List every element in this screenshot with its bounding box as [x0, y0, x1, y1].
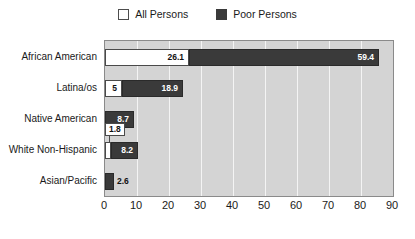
legend-label-all-persons: All Persons: [135, 9, 188, 20]
x-tick-label-10: 10: [130, 199, 142, 211]
x-tick-label-40: 40: [226, 199, 238, 211]
legend-swatch-poor-persons-icon: [216, 9, 227, 20]
x-tick-label-30: 30: [194, 199, 206, 211]
y-tick-label-native-american: Native American: [0, 113, 97, 124]
bar-row-asian-pacific: 2.6: [105, 173, 393, 190]
chart-legend: All Persons Poor Persons: [0, 9, 415, 20]
x-tick-label-70: 70: [322, 199, 334, 211]
x-tick-label-20: 20: [162, 199, 174, 211]
callout-leader-white-non-hispanic: [109, 136, 110, 143]
legend-item-poor-persons: Poor Persons: [216, 9, 297, 20]
plot-area: 26.1 59.4 5 18.9 8.7 8.2: [104, 40, 394, 197]
bar-all-persons-african-american: 26.1: [105, 49, 189, 66]
bar-row-african-american: 26.1 59.4: [105, 49, 393, 66]
x-tick-label-0: 0: [101, 199, 107, 211]
legend-item-all-persons: All Persons: [118, 9, 188, 20]
bar-row-native-american: 8.7: [105, 111, 393, 128]
bar-value-all-persons-white-non-hispanic: 1.8: [105, 123, 125, 136]
bar-poor-persons-latinaos: 18.9: [122, 80, 183, 97]
y-tick-label-latinaos: Latina/os: [0, 82, 97, 93]
bar-row-latinaos: 5 18.9: [105, 80, 393, 97]
bar-value-poor-persons-latinaos: 18.9: [161, 84, 182, 93]
x-axis: 0 10 20 30 40 50 60 70 80 90: [104, 199, 392, 219]
legend-label-poor-persons: Poor Persons: [233, 9, 297, 20]
x-tick-label-50: 50: [258, 199, 270, 211]
x-tick-label-60: 60: [290, 199, 302, 211]
legend-swatch-all-persons-icon: [118, 9, 129, 20]
y-tick-label-african-american: African American: [0, 51, 97, 62]
bar-value-poor-persons-white-non-hispanic: 8.2: [121, 146, 137, 155]
bar-value-poor-persons-asian-pacific: 2.6: [117, 177, 133, 186]
bar-value-poor-persons-african-american: 59.4: [357, 53, 378, 62]
y-tick-label-asian-pacific: Asian/Pacific: [0, 175, 97, 186]
bar-all-persons-latinaos: 5: [105, 80, 122, 97]
x-tick-label-90: 90: [386, 199, 398, 211]
bar-poor-persons-white-non-hispanic: 8.2: [111, 142, 138, 159]
bar-poor-persons-asian-pacific: [105, 173, 114, 190]
x-tick-label-80: 80: [354, 199, 366, 211]
stacked-bar-chart: All Persons Poor Persons African America…: [0, 0, 415, 239]
bar-value-all-persons-african-american: 26.1: [167, 53, 188, 62]
bar-row-white-non-hispanic: 8.2 1.8: [105, 142, 393, 159]
bar-poor-persons-african-american: 59.4: [189, 49, 379, 66]
y-axis-category-labels: African American Latina/os Native Americ…: [0, 40, 101, 195]
y-tick-label-white-non-hispanic: White Non-Hispanic: [0, 144, 97, 155]
bar-value-all-persons-latinaos: 5: [112, 84, 121, 93]
